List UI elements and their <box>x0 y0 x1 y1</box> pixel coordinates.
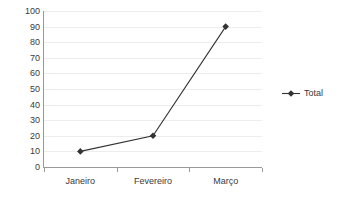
legend: Total <box>281 88 323 99</box>
y-tick-label: 70 <box>2 53 40 62</box>
y-tick-label: 50 <box>2 85 40 94</box>
x-tick <box>117 168 118 172</box>
legend-label-total: Total <box>304 88 323 99</box>
y-tick-label: 20 <box>2 131 40 140</box>
data-point-marker <box>222 23 229 30</box>
y-tick-label: 100 <box>2 7 40 16</box>
data-point-marker <box>150 133 157 140</box>
y-tick-label: 90 <box>2 22 40 31</box>
x-tick <box>44 168 45 172</box>
x-tick-label: Fevereiro <box>134 176 172 186</box>
plot-area: 0102030405060708090100 JaneiroFevereiroM… <box>0 0 337 199</box>
x-tick-label: Janeiro <box>66 176 96 186</box>
y-axis-labels: 0102030405060708090100 <box>2 11 40 167</box>
y-tick-label: 40 <box>2 100 40 109</box>
y-tick-label: 30 <box>2 116 40 125</box>
y-tick-label: 0 <box>2 163 40 172</box>
line-chart: 0102030405060708090100 JaneiroFevereiroM… <box>0 0 337 199</box>
x-tick <box>189 168 190 172</box>
series-total <box>44 11 262 167</box>
x-axis-labels: JaneiroFevereiroMarço <box>44 176 262 190</box>
y-tick-label: 80 <box>2 38 40 47</box>
y-tick-label: 60 <box>2 69 40 78</box>
data-point-marker <box>77 148 84 155</box>
x-axis-line <box>43 167 262 168</box>
legend-marker-total <box>281 88 301 99</box>
x-tick <box>262 168 263 172</box>
y-tick-label: 10 <box>2 147 40 156</box>
x-tick-label: Março <box>213 176 238 186</box>
